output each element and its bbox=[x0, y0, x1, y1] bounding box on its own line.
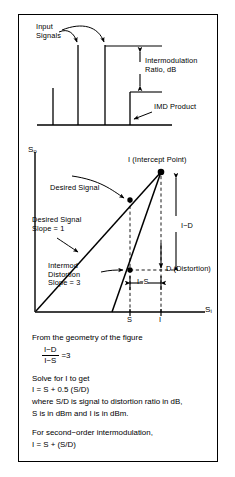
y-axis-label-sub: o bbox=[34, 148, 37, 154]
second-order-equation: I = S + (S/D) bbox=[32, 439, 212, 451]
intermod-slope-label: Intermod Distortion Slope = 3 bbox=[48, 262, 80, 288]
fraction-denominator: I−S bbox=[42, 356, 59, 365]
fraction-equals: =3 bbox=[62, 350, 71, 362]
imd-product-label: IMD Product bbox=[154, 103, 196, 112]
solve-intro: Solve for I to get bbox=[32, 373, 212, 385]
derivation-block: From the geometry of the figure I−D I−S … bbox=[32, 332, 212, 451]
input-signals-label: Input Signals bbox=[36, 23, 61, 40]
x-axis-label-sub: i bbox=[211, 308, 212, 314]
tick-label-i: I bbox=[159, 316, 161, 325]
intermodulation-ratio-label: Intermodulation Ratio, dB bbox=[145, 57, 197, 74]
tick-label-s: S bbox=[127, 316, 132, 325]
intercept-point-figure: Input Signals Intermodulation Ratio, dB … bbox=[0, 0, 235, 477]
intercept-point-label: I (Intercept Point) bbox=[128, 156, 187, 165]
second-order-intro: For second−order intermodulation, bbox=[32, 427, 212, 439]
distortion-label: D (Distortion) bbox=[166, 265, 211, 274]
geometry-fraction: I−D I−S bbox=[42, 346, 59, 366]
y-axis-label: So bbox=[28, 145, 37, 155]
i-minus-d-label: I−D bbox=[181, 222, 193, 231]
x-axis-label: Si bbox=[205, 305, 212, 315]
solve-equation: I = S + 0.5 (S/D) bbox=[32, 384, 212, 396]
derivation-intro: From the geometry of the figure bbox=[32, 332, 212, 344]
desired-signal-callout-label: Desired Signal bbox=[50, 184, 99, 193]
where-line-1: where S/D is signal to distortion ratio … bbox=[32, 396, 212, 408]
fraction-numerator: I−D bbox=[42, 346, 59, 356]
where-line-2: S is in dBm and I is in dBm. bbox=[32, 408, 212, 420]
i-minus-s-label: I−S bbox=[137, 278, 149, 287]
geometry-ratio-equation: I−D I−S =3 bbox=[32, 346, 212, 366]
desired-signal-slope-label: Desired Signal Slope = 1 bbox=[32, 216, 81, 233]
